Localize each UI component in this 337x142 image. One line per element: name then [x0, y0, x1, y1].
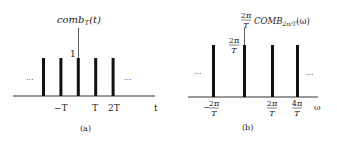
- panel-b-impulse-1: [243, 45, 246, 97]
- panel-b-height-label: 2π T: [229, 36, 239, 55]
- panel-b-impulse-2: [271, 45, 274, 97]
- panel-a-left-ellipsis: ...: [26, 73, 34, 82]
- panel-a-impulse-0: [42, 58, 45, 96]
- panel-a-tick-t: T: [92, 103, 98, 113]
- panel-b-height-numerator: 2π: [229, 36, 239, 45]
- svg-text:4π: 4π: [292, 99, 302, 108]
- svg-text:T: T: [294, 109, 300, 118]
- panel-a-right-ellipsis: ...: [124, 73, 132, 82]
- panel-b-function-label: 2π T COMB2π/T(ω): [241, 11, 310, 30]
- panel-a-impulse-3: [94, 58, 97, 96]
- panel-a-tick-2t: 2T: [108, 103, 120, 113]
- panel-b-comb-text: COMB2π/T(ω): [254, 16, 310, 27]
- panel-b-caption: (b): [242, 123, 253, 132]
- panel-a-axis-label: t: [154, 103, 158, 113]
- panel-b-impulse-3: [296, 45, 299, 97]
- panel-a-impulse-4: [112, 58, 115, 96]
- panel-b-axis-label: ω: [314, 103, 321, 112]
- panel-a: combT(t) 1 ... ... −T T 2T t (a): [13, 14, 158, 133]
- panel-b-tick-minus-2pi-over-t: − 2π T: [203, 99, 219, 118]
- svg-text:2π: 2π: [267, 99, 277, 108]
- panel-b-right-ellipsis: ...: [306, 68, 314, 77]
- svg-text:2π: 2π: [209, 99, 219, 108]
- svg-text:T: T: [269, 109, 275, 118]
- panel-b-tick-4pi-over-t: 4π T: [292, 99, 302, 118]
- panel-a-height-label: 1: [70, 49, 76, 59]
- panel-b-coef-denominator: T: [243, 21, 249, 30]
- panel-b-coef-numerator: 2π: [241, 11, 251, 20]
- panel-b-tick-2pi-over-t: 2π T: [267, 99, 277, 118]
- panel-a-impulses: [42, 58, 115, 96]
- panel-b-left-ellipsis: ...: [194, 67, 202, 76]
- svg-text:T: T: [211, 109, 217, 118]
- panel-b: 2π T COMB2π/T(ω) 2π T ... ... − 2π T 2π …: [188, 11, 321, 132]
- panel-b-impulses: [212, 45, 299, 97]
- panel-a-impulse-2: [77, 58, 80, 96]
- panel-a-function-label: combT(t): [57, 14, 101, 27]
- panel-b-impulse-0: [212, 45, 215, 97]
- panel-a-impulse-1: [59, 58, 62, 96]
- panel-b-height-denominator: T: [231, 46, 237, 55]
- panel-a-caption: (a): [80, 124, 91, 133]
- panel-a-tick-minus-t: −T: [54, 103, 68, 113]
- comb-diagram: combT(t) 1 ... ... −T T 2T t (a) 2π T CO…: [0, 0, 337, 142]
